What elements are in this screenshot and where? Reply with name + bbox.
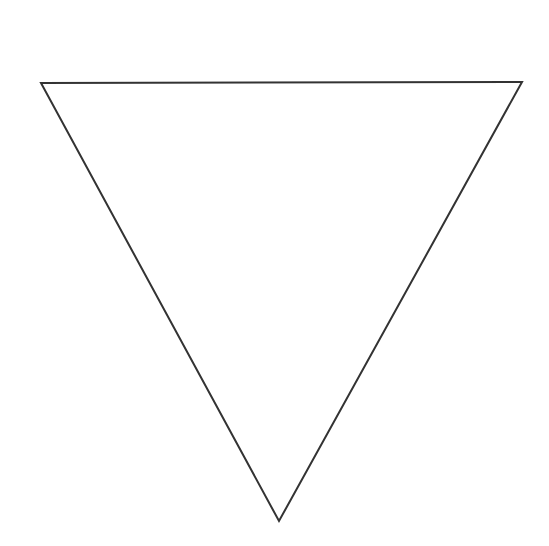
diagram-canvas bbox=[0, 0, 549, 546]
triangle-diagram bbox=[0, 0, 549, 546]
inverted-triangle-shape bbox=[41, 82, 522, 521]
